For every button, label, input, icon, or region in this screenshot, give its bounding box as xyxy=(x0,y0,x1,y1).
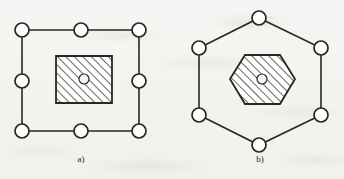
panel-a-caption: a) xyxy=(78,154,85,164)
panel-b-node-top xyxy=(252,11,266,25)
panel-b xyxy=(192,11,328,152)
panel-b-node-upper-left xyxy=(192,41,206,55)
panel-b-node-lower-right xyxy=(314,108,328,122)
panel-a-node-top-center xyxy=(74,23,88,37)
panel-b-caption: b) xyxy=(256,154,264,164)
panel-a-core-center-hole xyxy=(79,74,89,84)
panel-a-node-top-right xyxy=(132,23,146,37)
panel-a xyxy=(15,23,146,138)
panel-a-node-bottom-right xyxy=(132,124,146,138)
panel-b-node-bottom xyxy=(252,138,266,152)
panel-a-node-middle-left xyxy=(15,74,29,88)
panel-a-node-bottom-left xyxy=(15,124,29,138)
panel-b-node-lower-left xyxy=(192,108,206,122)
panel-b-node-upper-right xyxy=(314,41,328,55)
technical-figure xyxy=(0,0,344,179)
figure-page: a) b) xyxy=(0,0,344,179)
panel-a-node-middle-right xyxy=(132,74,146,88)
panel-b-core-center-hole xyxy=(257,74,267,84)
panel-a-node-bottom-center xyxy=(74,124,88,138)
panel-a-node-top-left xyxy=(15,23,29,37)
